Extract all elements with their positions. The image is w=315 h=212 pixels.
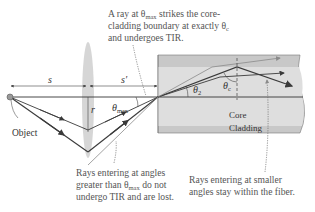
optical-fiber: [158, 55, 305, 133]
svg-text:angles stay within the fiber.: angles stay within the fiber.: [189, 186, 295, 197]
optical-fiber-diagram: s s′ r θmax θ2 θc Object Core Cladding A…: [0, 0, 315, 212]
svg-text:cladding boundary at exactly θ: cladding boundary at exactly θc: [108, 20, 229, 32]
cladding-label: Cladding: [229, 123, 262, 133]
s-label: s: [48, 74, 52, 85]
theta-max-label: θmax: [112, 102, 129, 114]
svg-text:Rays entering at smaller: Rays entering at smaller: [189, 174, 283, 185]
s-prime-label: s′: [121, 74, 128, 85]
annotation-trapped-rays: Rays entering at smaller angles stay wit…: [189, 174, 295, 197]
object-point: [7, 94, 13, 100]
svg-text:undergo TIR and are lost.: undergo TIR and are lost.: [76, 191, 174, 202]
annotation-lost-rays: Rays entering at angles greater than θma…: [76, 167, 174, 202]
svg-text:greater than θmax do not: greater than θmax do not: [76, 179, 167, 191]
r-label: r: [91, 104, 95, 115]
svg-text:Rays entering at angles: Rays entering at angles: [76, 167, 166, 178]
svg-text:and undergoes TIR.: and undergoes TIR.: [108, 32, 184, 43]
object-label: Object: [12, 128, 38, 138]
svg-text:A ray at θmax strikes the core: A ray at θmax strikes the core-: [108, 8, 220, 20]
object-leader: [11, 100, 18, 118]
annotation-top: A ray at θmax strikes the core- cladding…: [108, 8, 229, 43]
core-label: Core: [229, 110, 247, 120]
